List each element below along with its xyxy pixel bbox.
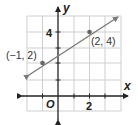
y-tick-label-4: 4 bbox=[46, 27, 53, 39]
y-axis-label: y bbox=[62, 1, 71, 15]
x-tick-label-2: 2 bbox=[86, 100, 92, 112]
x-axis-label: x bbox=[123, 79, 132, 93]
point-label-2-4: (2, 4) bbox=[91, 35, 116, 47]
point-label-neg1-2: (−1, 2) bbox=[6, 49, 37, 61]
point-2-4 bbox=[87, 30, 92, 35]
origin-label: O bbox=[46, 98, 55, 110]
point-neg1-2 bbox=[40, 61, 45, 66]
coordinate-graph: y x 4 2 O (−1, 2) (2, 4) bbox=[0, 0, 138, 125]
